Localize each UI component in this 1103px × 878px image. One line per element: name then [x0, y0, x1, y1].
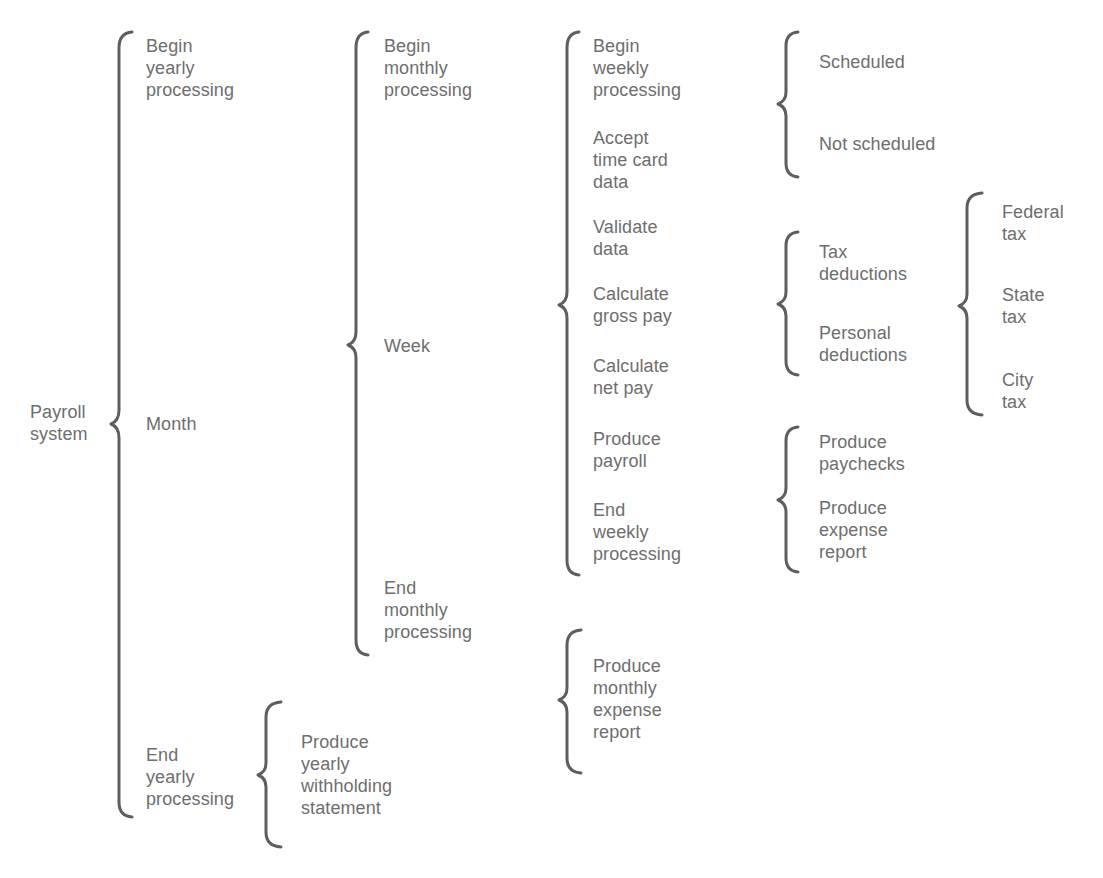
- node-validate-data: Validate data: [593, 216, 658, 260]
- node-payroll-system: Payroll system: [30, 401, 88, 445]
- bracket-month: [348, 32, 368, 655]
- node-calculate-gross-pay: Calculate gross pay: [593, 283, 672, 327]
- bracket-end-monthly: [559, 630, 581, 773]
- node-tax-deductions: Tax deductions: [819, 241, 907, 285]
- node-end-yearly-processing: End yearly processing: [146, 744, 234, 810]
- node-calculate-net-pay: Calculate net pay: [593, 355, 669, 399]
- node-end-monthly-processing: End monthly processing: [384, 577, 472, 643]
- node-city-tax: City tax: [1002, 369, 1033, 413]
- node-accept-time-card-data: Accept time card data: [593, 127, 668, 193]
- node-scheduled: Scheduled: [819, 51, 905, 73]
- node-begin-weekly-processing: Begin weekly processing: [593, 35, 681, 101]
- bracket-begin-weekly: [778, 32, 798, 177]
- node-produce-yearly-withholding-statement: Produce yearly withholding statement: [301, 731, 392, 819]
- node-not-scheduled: Not scheduled: [819, 133, 935, 155]
- node-produce-expense-report: Produce expense report: [819, 497, 888, 563]
- bracket-tax-deductions: [959, 193, 982, 415]
- node-begin-yearly-processing: Begin yearly processing: [146, 35, 234, 101]
- node-produce-paychecks: Produce paychecks: [819, 431, 905, 475]
- node-produce-payroll: Produce payroll: [593, 428, 661, 472]
- node-personal-deductions: Personal deductions: [819, 322, 907, 366]
- node-state-tax: State tax: [1002, 284, 1045, 328]
- bracket-gross-pay: [778, 232, 798, 375]
- node-begin-monthly-processing: Begin monthly processing: [384, 35, 472, 101]
- bracket-end-yearly: [258, 702, 281, 847]
- bracket-produce-payroll: [778, 427, 798, 572]
- bracket-week: [559, 32, 579, 575]
- warnier-orr-diagram: Payroll system Begin yearly processing M…: [0, 0, 1103, 878]
- node-week: Week: [384, 335, 430, 357]
- node-produce-monthly-expense-report: Produce monthly expense report: [593, 655, 662, 743]
- node-month: Month: [146, 413, 197, 435]
- node-end-weekly-processing: End weekly processing: [593, 499, 681, 565]
- bracket-payroll-system: [111, 32, 132, 817]
- node-federal-tax: Federal tax: [1002, 201, 1064, 245]
